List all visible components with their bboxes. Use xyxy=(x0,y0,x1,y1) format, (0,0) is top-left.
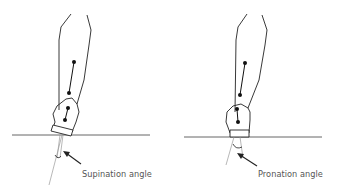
shoe-sole xyxy=(51,125,73,136)
leg-segment xyxy=(240,63,245,95)
vertical-reference-line-2 xyxy=(57,135,60,158)
angle-arc xyxy=(233,144,242,148)
marker-upper-heel xyxy=(66,106,70,110)
diagram-canvas xyxy=(0,0,337,193)
marker-upper-leg xyxy=(72,60,76,64)
pointer-arrow-line xyxy=(240,155,257,166)
leg-segment xyxy=(69,62,74,93)
leg-outline xyxy=(235,14,267,112)
vertical-reference-line xyxy=(60,135,63,158)
marker-lower-heel xyxy=(236,120,240,124)
marker-lower-heel xyxy=(63,118,67,122)
marker-lower-leg xyxy=(238,93,242,97)
pronation-panel xyxy=(184,14,322,166)
foot-angle-diagram: Supination angle Pronation angle xyxy=(0,0,337,193)
heel-axis-line xyxy=(49,135,62,185)
supination-panel xyxy=(12,14,150,185)
marker-upper-heel xyxy=(235,107,239,111)
supination-angle-label: Supination angle xyxy=(82,169,152,179)
shoe-sole xyxy=(230,130,249,137)
arrow-head-icon xyxy=(63,151,70,157)
heel-axis-line xyxy=(226,137,234,165)
marker-lower-leg xyxy=(67,91,71,95)
pronation-angle-label: Pronation angle xyxy=(258,169,323,179)
marker-upper-leg xyxy=(243,61,247,65)
